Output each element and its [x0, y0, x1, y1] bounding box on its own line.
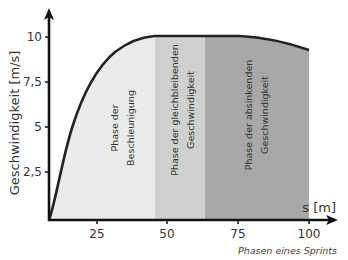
y-axis-label: Geschwindigkeit [m/s] — [7, 51, 22, 196]
x-tick-label: 100 — [298, 227, 321, 241]
x-tick-label: 50 — [159, 227, 174, 241]
svg-text:Phase der: Phase der — [109, 104, 120, 151]
phase-region-constant — [155, 36, 205, 220]
svg-text:Phase der absinkenden: Phase der absinkenden — [243, 60, 254, 171]
x-tick-label: 75 — [230, 227, 245, 241]
x-axis-label: s [m] — [302, 200, 336, 215]
svg-text:Phase der gleichbleibenden: Phase der gleichbleibenden — [169, 44, 180, 176]
svg-text:Beschleunigung: Beschleunigung — [125, 90, 136, 166]
y-tick-label: 2,5 — [23, 165, 42, 179]
sprint-phases-chart: 10 7,5 5 2,5 25 50 75 100 s [m] Geschwin… — [0, 0, 348, 260]
svg-text:Geschwindigkeit: Geschwindigkeit — [185, 71, 196, 149]
x-tick-label: 25 — [89, 227, 104, 241]
y-tick-label: 5 — [34, 120, 42, 134]
y-tick-label: 7,5 — [23, 75, 42, 89]
phase-region-declining — [205, 36, 309, 220]
chart-caption: Phasen eines Sprints — [238, 245, 337, 256]
svg-text:Geschwindigkeit: Geschwindigkeit — [259, 76, 270, 154]
y-tick-label: 10 — [27, 30, 42, 44]
